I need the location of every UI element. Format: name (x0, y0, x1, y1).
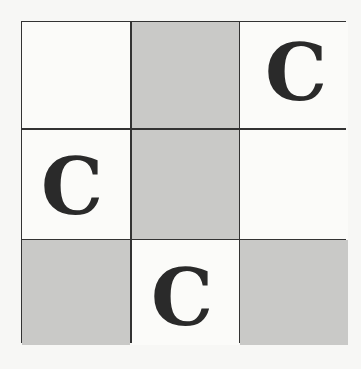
grid-cell[interactable] (240, 130, 348, 239)
puzzle-grid: C C C (21, 21, 346, 343)
grid-cell[interactable] (132, 22, 239, 128)
grid-cell[interactable] (22, 240, 130, 345)
grid-cell[interactable]: C (132, 240, 239, 345)
grid-cell[interactable]: C (22, 130, 130, 239)
grid-cell[interactable]: C (240, 22, 348, 128)
cell-letter: C (41, 148, 103, 226)
grid-cell[interactable] (132, 130, 239, 239)
cell-letter: C (265, 34, 327, 112)
grid-cell[interactable] (240, 240, 348, 345)
grid-cell[interactable] (22, 22, 130, 128)
cell-letter: C (151, 259, 213, 337)
